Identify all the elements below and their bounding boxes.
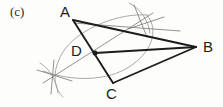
vertex-label-b: B [203, 39, 213, 54]
vertex-label-c: C [106, 86, 117, 101]
polygon-segment-group [73, 20, 196, 83]
vertex-label-d: D [71, 43, 82, 58]
panel-label: (c) [10, 5, 24, 18]
segment-a-b [73, 20, 196, 47]
ray-x1-shallow-line [128, 17, 164, 29]
point-d-marker [93, 51, 98, 56]
ray-x2-vertical-line [51, 60, 54, 94]
ray-x1-steep-line [134, 5, 147, 37]
vertex-label-a: A [60, 4, 70, 19]
segment-c-b [113, 47, 196, 83]
geometry-figure-panel-c: (c) A B C D [0, 0, 223, 107]
